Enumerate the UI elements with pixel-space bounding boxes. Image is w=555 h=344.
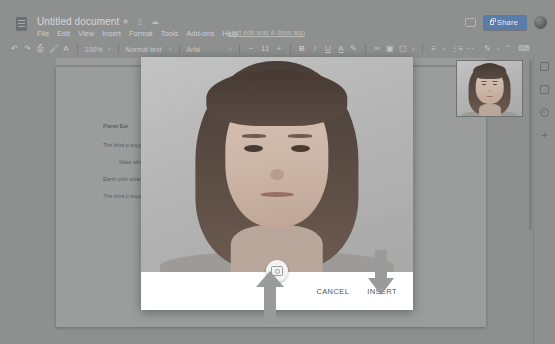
insert-image-icon[interactable]: ▢: [399, 44, 407, 54]
video-portrait-image: [141, 57, 413, 272]
editing-mode-icon[interactable]: ✎: [484, 44, 492, 54]
toolbar-divider: [77, 44, 78, 54]
tasks-icon[interactable]: [540, 108, 549, 117]
font-size-decrease-button[interactable]: −: [247, 44, 255, 54]
title-actions: ★ ▯ ☁: [122, 17, 159, 26]
google-docs-window: Untitled document ★ ▯ ☁ File Edit View I…: [0, 0, 555, 344]
menu-item-addons[interactable]: Add-ons: [186, 29, 214, 38]
cloud-status-icon[interactable]: ☁: [151, 17, 159, 26]
avatar[interactable]: [534, 16, 547, 29]
menu-item-view[interactable]: View: [78, 29, 94, 38]
lock-icon: [490, 20, 494, 25]
share-area: Share: [465, 15, 547, 30]
chevron-down-icon[interactable]: ▾: [443, 46, 446, 52]
add-ons-plus-icon[interactable]: +: [540, 131, 549, 140]
keep-notes-icon[interactable]: [540, 85, 549, 94]
menu-item-edit[interactable]: Edit: [57, 29, 70, 38]
insert-link-icon[interactable]: ∞: [373, 44, 381, 54]
keyboard-icon[interactable]: ⌨: [518, 44, 527, 54]
italic-button[interactable]: I: [311, 44, 319, 54]
bold-button[interactable]: B: [298, 44, 306, 54]
paragraph-style-value: Normal text: [126, 46, 166, 53]
share-button-label: Share: [497, 18, 518, 27]
toolbar-divider: [365, 44, 366, 54]
align-icon[interactable]: ≡: [430, 44, 438, 54]
toolbar-divider: [422, 44, 423, 54]
add-comment-icon[interactable]: ▣: [386, 44, 394, 54]
spelling-check-icon[interactable]: A: [62, 44, 70, 54]
star-icon[interactable]: ★: [122, 17, 129, 26]
app-chrome: Untitled document ★ ▯ ☁ File Edit View I…: [0, 0, 555, 58]
formatting-toolbar: ↶ ↷ ⎙ 🖌 A 100% ▾ Normal text ▾ Arial ▾ −: [0, 40, 555, 58]
redo-icon[interactable]: ↷: [23, 44, 31, 54]
paragraph-style-selector[interactable]: Normal text ▾: [126, 46, 172, 53]
chevron-down-icon: ▾: [108, 46, 111, 52]
menu-item-file[interactable]: File: [37, 29, 49, 38]
print-icon[interactable]: ⎙: [36, 44, 44, 54]
menu-item-format[interactable]: Format: [129, 29, 153, 38]
hide-menus-icon[interactable]: ⌃: [505, 44, 513, 54]
menu-item-tools[interactable]: Tools: [161, 29, 179, 38]
calendar-icon[interactable]: [540, 62, 549, 71]
preview-portrait-image: [457, 61, 522, 116]
document-icon[interactable]: [16, 17, 27, 31]
arrow-pointing-to-insert-button: [368, 250, 394, 295]
font-value: Arial: [186, 46, 226, 53]
chevron-down-icon: ▾: [169, 46, 172, 52]
webcam-preview-thumbnail[interactable]: [456, 60, 523, 117]
webcam-live-video[interactable]: [141, 57, 413, 272]
comment-icon[interactable]: [465, 18, 476, 27]
title-bar: Untitled document ★ ▯ ☁ File Edit View I…: [0, 0, 555, 40]
menu-bar: File Edit View Insert Format Tools Add-o…: [37, 29, 238, 38]
toolbar-divider: [239, 44, 240, 54]
side-rail: +: [533, 58, 555, 344]
chevron-down-icon[interactable]: ▾: [497, 46, 500, 52]
last-edit-link[interactable]: Last edit was 4 days ago: [228, 29, 305, 36]
highlight-color-icon[interactable]: ✎: [350, 44, 358, 54]
document-title[interactable]: Untitled document: [37, 16, 119, 27]
paint-format-icon[interactable]: 🖌: [49, 44, 57, 54]
font-selector[interactable]: Arial ▾: [186, 46, 232, 53]
menu-item-insert[interactable]: Insert: [102, 29, 121, 38]
zoom-value: 100%: [85, 46, 105, 53]
undo-icon[interactable]: ↶: [10, 44, 18, 54]
zoom-selector[interactable]: 100% ▾: [85, 46, 111, 53]
toolbar-divider: [179, 44, 180, 54]
toolbar-divider: [118, 44, 119, 54]
line-spacing-icon[interactable]: ⋮≡: [451, 44, 461, 54]
toolbar-divider: [290, 44, 291, 54]
text-color-button[interactable]: A: [337, 44, 345, 54]
move-to-folder-icon[interactable]: ▯: [138, 17, 142, 26]
chevron-down-icon: ▾: [229, 46, 232, 52]
vertical-scrollbar[interactable]: [529, 60, 532, 230]
font-size-increase-button[interactable]: +: [275, 44, 283, 54]
more-options-icon[interactable]: ⋯: [466, 44, 474, 54]
share-button[interactable]: Share: [483, 15, 527, 30]
arrow-pointing-to-capture-button: [256, 271, 284, 321]
underline-button[interactable]: U: [324, 44, 332, 54]
chevron-down-icon[interactable]: ▾: [412, 46, 415, 52]
cancel-button[interactable]: CANCEL: [316, 287, 349, 296]
font-size-value[interactable]: 11: [260, 44, 270, 54]
